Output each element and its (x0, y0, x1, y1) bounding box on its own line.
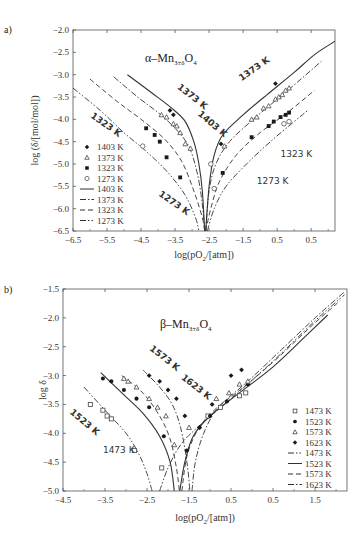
x-axis-title: log(pO2/[atm]) (174, 249, 234, 263)
figure: a)−6.5−5.5−4.5−3.5−2.5−1.50.50.5log(pO2/… (0, 0, 363, 534)
y-axis-title: log δ (37, 380, 48, 400)
marker-diamond-filled (273, 81, 278, 86)
curve-annotation: 1403 K (196, 109, 230, 140)
x-tick-label: −1.5 (181, 495, 198, 505)
marker-diamond-filled (171, 112, 176, 117)
y-tick-label: −2.5 (53, 47, 70, 57)
marker-triangle-open (171, 121, 176, 125)
marker-triangle-open (155, 405, 160, 409)
marker-circle-open (209, 162, 214, 167)
legend-label: 1323 K (97, 205, 124, 215)
chart-title: α–Mn3±δO4 (145, 51, 197, 67)
y-axis-title: log (δ/[mol/mol]) (29, 96, 41, 166)
y-tick-label: −1.5 (43, 284, 60, 294)
legend-label: 1623 K (305, 438, 332, 448)
x-tick-label: 0.5 (272, 235, 284, 245)
y-tick-label: −6.5 (53, 226, 70, 236)
y-tick-label: −3.0 (53, 70, 70, 80)
x-axis: −4.5−3.5−2.5−1.50.50.51.5 (55, 289, 336, 505)
legend: 1473 K1523 K1573 K1623 K1473 K1523 K1573… (288, 406, 332, 490)
chart-panel-a: a)−6.5−5.5−4.5−3.5−2.5−1.50.50.5log(pO2/… (4, 24, 335, 263)
marker-circle-filled (109, 379, 113, 383)
legend-label: 1323 K (97, 163, 124, 173)
marker-triangle-open (188, 146, 193, 150)
marker-square-open (109, 417, 113, 421)
marker-triangle-open (214, 396, 219, 400)
marker-diamond-filled (157, 379, 162, 384)
y-tick-label: −4.5 (43, 457, 60, 467)
y-tick-label: −2.0 (53, 25, 70, 35)
marker-triangle-open (172, 442, 177, 446)
marker-triangle-open (126, 379, 131, 383)
marker-circle-filled (293, 420, 297, 424)
x-tick-label: −4.5 (133, 235, 150, 245)
marker-square-filled (287, 111, 291, 115)
curve-annotation: 1623 K (179, 372, 214, 402)
marker-circle-open (287, 119, 292, 124)
marker-square-open (88, 402, 92, 406)
marker-square-filled (158, 140, 162, 144)
marker-square-open (105, 414, 109, 418)
marker-triangle-open (227, 390, 232, 394)
marker-triangle-open (164, 414, 169, 418)
marker-diamond-filled (166, 388, 171, 393)
y-tick-label: −6.0 (53, 204, 70, 214)
marker-circle-filled (122, 388, 126, 392)
y-tick-label: −4.0 (53, 114, 70, 124)
legend-label: 1373 K (97, 195, 124, 205)
x-tick-label: −5.5 (99, 235, 116, 245)
panel-label: b) (4, 284, 12, 296)
x-tick-label: −6.5 (65, 235, 82, 245)
y-tick-label: −5.0 (43, 486, 60, 496)
curve-annotation: 1273 K (157, 189, 192, 218)
marker-triangle-open (280, 92, 285, 96)
marker-circle-open (85, 176, 89, 180)
marker-triangle-open (266, 104, 271, 108)
curve-annotation: 1523 K (68, 407, 102, 438)
marker-triangle-open (187, 425, 192, 429)
marker-diamond-filled (85, 145, 89, 149)
legend-label: 1473 K (305, 406, 332, 416)
curve-1323K-right (206, 90, 315, 231)
marker-diamond-filled (210, 402, 215, 407)
marker-circle-open (140, 144, 145, 149)
marker-square-filled (178, 175, 182, 179)
legend-label: 1623 K (305, 480, 332, 490)
marker-square-filled (279, 115, 283, 119)
marker-triangle-open (261, 106, 266, 110)
y-tick-label: −4.0 (43, 428, 60, 438)
marker-square-filled (153, 133, 157, 137)
marker-circle-open (212, 186, 217, 191)
legend-label: 1473 K (305, 448, 332, 458)
legend: 1403 K1373 K1323 K1273 K1403 K1373 K1323… (80, 142, 124, 226)
marker-square-open (293, 409, 297, 413)
legend-label: 1373 K (97, 153, 124, 163)
marker-triangle-open (254, 115, 259, 119)
marker-circle-filled (225, 400, 229, 404)
marker-square-filled (250, 135, 254, 139)
chart-title: β–Mn3±δO4 (160, 317, 212, 333)
legend-label: 1273 K (97, 174, 124, 184)
x-tick-label: −3.5 (167, 235, 184, 245)
marker-diamond-filled (147, 373, 152, 378)
data-points (140, 81, 291, 191)
marker-square-filled (144, 126, 148, 130)
legend-label: 1523 K (305, 417, 332, 427)
x-tick-label: 1.5 (309, 495, 321, 505)
x-tick-label: −3.5 (97, 495, 114, 505)
marker-circle-filled (208, 414, 212, 418)
marker-circle-filled (134, 397, 138, 401)
curve-1523K-left (101, 373, 175, 491)
x-tick-label: 0.5 (306, 235, 318, 245)
x-axis-title: log(pO2/[atm]) (175, 512, 235, 526)
marker-triangle-open (164, 115, 169, 119)
y-tick-label: −2.0 (43, 313, 60, 323)
legend-label: 1573 K (305, 427, 332, 437)
marker-circle-filled (147, 405, 151, 409)
y-tick-label: −3.5 (53, 92, 70, 102)
curve-annotation: 1323 K (281, 149, 314, 159)
y-tick-label: −5.5 (53, 181, 70, 191)
marker-circle-filled (185, 449, 189, 453)
y-tick-label: −4.5 (53, 137, 70, 147)
marker-triangle-open (293, 430, 297, 434)
